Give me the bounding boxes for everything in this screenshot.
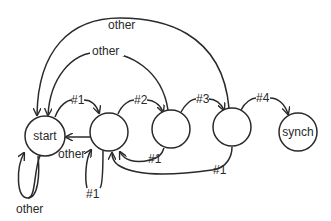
edge-label-other-inner: other <box>92 44 119 58</box>
node-s1 <box>90 113 128 151</box>
edge-s2-to-start-other <box>48 52 168 115</box>
node-synch: synch <box>279 113 317 151</box>
node-start: start <box>25 116 65 156</box>
node-s2 <box>152 110 190 148</box>
node-start-label: start <box>33 129 57 143</box>
edge-label-self-s1: #1 <box>86 187 100 201</box>
edge-label-h2: #2 <box>134 93 148 107</box>
node-synch-label: synch <box>282 125 313 139</box>
edge-label-other-outer: other <box>108 18 135 32</box>
edge-label-h4: #4 <box>256 91 270 105</box>
edge-label-s2-s1: #1 <box>148 152 162 166</box>
node-s3 <box>213 108 251 146</box>
edge-label-other-self: other <box>16 202 43 216</box>
edge-label-other-s1: other <box>58 147 85 161</box>
edge-s1-self-h1 <box>86 150 103 188</box>
edge-start-self-other <box>18 153 40 198</box>
edge-label-s3-s1: #1 <box>213 163 227 177</box>
edge-label-h1: #1 <box>71 93 85 107</box>
edge-label-h3: #3 <box>196 92 210 106</box>
state-diagram: other other #1 #2 #3 #4 other other #1 #… <box>0 0 331 221</box>
